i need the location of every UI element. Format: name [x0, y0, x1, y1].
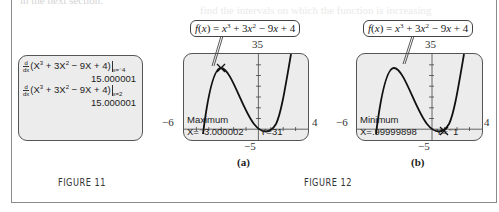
readout-x-a: X=⁻3.000002	[187, 126, 244, 137]
ymax-label-b: 35	[425, 38, 436, 50]
readout-y-b: Y=⁻1	[436, 126, 458, 137]
ymin-label-a: −5	[244, 140, 256, 152]
function-label-b: f(x) = x3 + 3x2 − 9x + 4	[363, 20, 473, 37]
xmin-label-b: −6	[336, 116, 348, 128]
xmin-label-a: −6	[162, 116, 174, 128]
panel-label-a: (a)	[237, 156, 250, 168]
figure-12-caption: FIGURE 12	[304, 177, 352, 188]
xmax-label-a: 4	[312, 116, 318, 128]
graph-screen-a: Maximum X=⁻3.000002 Y=31	[183, 53, 309, 141]
readout-title-b: Minimum	[360, 114, 399, 125]
derivative-line-1: ddx(X3 + 3X2 − 9X + 4)x=⁻4	[23, 60, 125, 73]
label-leader-b	[0, 0, 20, 20]
readout-x-b: X=.99999898	[360, 126, 417, 137]
ymin-label-b: −5	[418, 140, 430, 152]
readout-y-a: Y=31	[260, 126, 282, 137]
readout-title-a: Maximum	[187, 114, 228, 125]
function-label-a: f(x) = x3 + 3x2 − 9x + 4	[190, 20, 300, 37]
derivative-line-2: ddx(X3 + 3X2 − 9X + 4)x=2	[23, 84, 122, 97]
ymax-label-a: 35	[252, 38, 263, 50]
graph-screen-b: Minimum X=.99999898 Y=⁻1	[356, 53, 483, 141]
derivative-result-1: 15.000001	[91, 73, 136, 84]
xmax-label-b: 4	[484, 116, 490, 128]
calculator-screen: ddx(X3 + 3X2 − 9X + 4)x=⁻4 15.000001 ddx…	[18, 55, 143, 141]
d-dx-fraction: ddx	[23, 60, 29, 73]
derivative-result-2: 15.000001	[91, 97, 136, 108]
figure-11-caption: FIGURE 11	[58, 177, 106, 188]
d-dx-fraction: ddx	[23, 84, 29, 97]
panel-label-b: (b)	[411, 156, 424, 168]
